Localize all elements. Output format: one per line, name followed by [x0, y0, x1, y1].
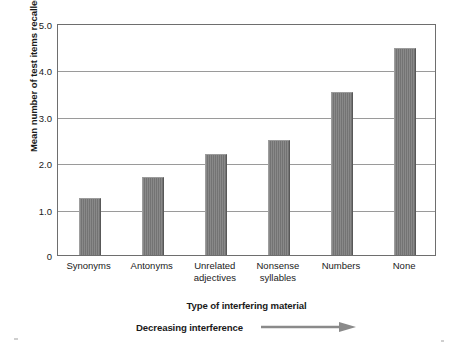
- y-axis-title: Mean number of test items recalled: [28, 0, 39, 169]
- x-tick-line: Synonyms: [54, 260, 124, 272]
- bar-unrelated-adjectives: [205, 154, 227, 255]
- x-tick-label-antonyms: Antonyms: [117, 260, 187, 272]
- bar-series: [58, 25, 435, 255]
- x-tick-label-none: None: [369, 260, 439, 272]
- bar-none: [394, 48, 416, 255]
- x-tick-line: Unrelated: [180, 260, 250, 272]
- bar-slot: [58, 25, 121, 255]
- x-tick-line: adjectives: [180, 272, 250, 284]
- bar-slot: [184, 25, 247, 255]
- chart-figure: Mean number of test items recalled 5.0 4…: [0, 0, 455, 349]
- y-tick-label: 1.0: [28, 205, 52, 216]
- bar-slot: [121, 25, 184, 255]
- bar-slot: [374, 25, 437, 255]
- x-axis-tick-labels: Synonyms Antonyms Unrelated adjectives N…: [57, 260, 436, 294]
- interference-annotation: Decreasing interference: [57, 321, 436, 333]
- right-arrow-icon: [261, 321, 357, 333]
- x-tick-line: syllables: [243, 272, 313, 284]
- x-tick-label-synonyms: Synonyms: [54, 260, 124, 272]
- x-tick-label-nonsense-syllables: Nonsense syllables: [243, 260, 313, 283]
- x-tick-line: Numbers: [306, 260, 376, 272]
- x-tick-line: Nonsense: [243, 260, 313, 272]
- scan-speck: [441, 340, 444, 342]
- scan-speck: [14, 338, 18, 340]
- bar-nonsense-syllables: [268, 140, 290, 255]
- interference-annotation-label: Decreasing interference: [136, 322, 243, 333]
- bar-slot: [310, 25, 373, 255]
- bar-antonyms: [142, 177, 164, 255]
- bar-synonyms: [79, 198, 101, 256]
- x-tick-label-unrelated-adjectives: Unrelated adjectives: [180, 260, 250, 283]
- x-tick-label-numbers: Numbers: [306, 260, 376, 272]
- plot-area: [57, 24, 436, 256]
- y-tick-label: 0: [28, 251, 52, 262]
- x-tick-line: None: [369, 260, 439, 272]
- bar-slot: [247, 25, 310, 255]
- bar-numbers: [331, 92, 353, 255]
- x-tick-line: Antonyms: [117, 260, 187, 272]
- x-axis-title: Type of interfering material: [57, 300, 436, 311]
